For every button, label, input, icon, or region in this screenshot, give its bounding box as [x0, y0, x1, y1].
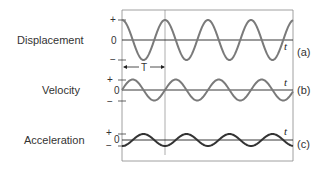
- period-label: T: [141, 62, 147, 73]
- svg-text:t: t: [284, 40, 288, 52]
- svg-text:+: +: [107, 74, 113, 85]
- svg-text:−: −: [107, 96, 113, 107]
- svg-text:+: +: [110, 14, 116, 25]
- plot-velocity: + 0 − t (b): [107, 74, 310, 107]
- svg-text:(b): (b): [297, 84, 310, 96]
- frame: [122, 10, 293, 161]
- svg-text:−: −: [106, 140, 112, 151]
- svg-text:t: t: [284, 76, 288, 88]
- svg-text:0: 0: [114, 85, 120, 96]
- oscillation-diagram: T + 0 − t (a) + 0 − t (b) + 0 − t (c): [0, 0, 324, 171]
- svg-text:−: −: [110, 54, 116, 65]
- plot-acceleration: + 0 − t (c): [106, 125, 310, 151]
- svg-text:0: 0: [114, 134, 120, 145]
- svg-text:(a): (a): [297, 46, 310, 58]
- svg-text:+: +: [106, 127, 112, 138]
- svg-text:t: t: [284, 125, 288, 137]
- period-arrow: T: [123, 62, 165, 73]
- svg-text:(c): (c): [297, 138, 310, 150]
- svg-text:0: 0: [111, 35, 117, 46]
- plot-displacement: + 0 − t (a): [110, 14, 310, 65]
